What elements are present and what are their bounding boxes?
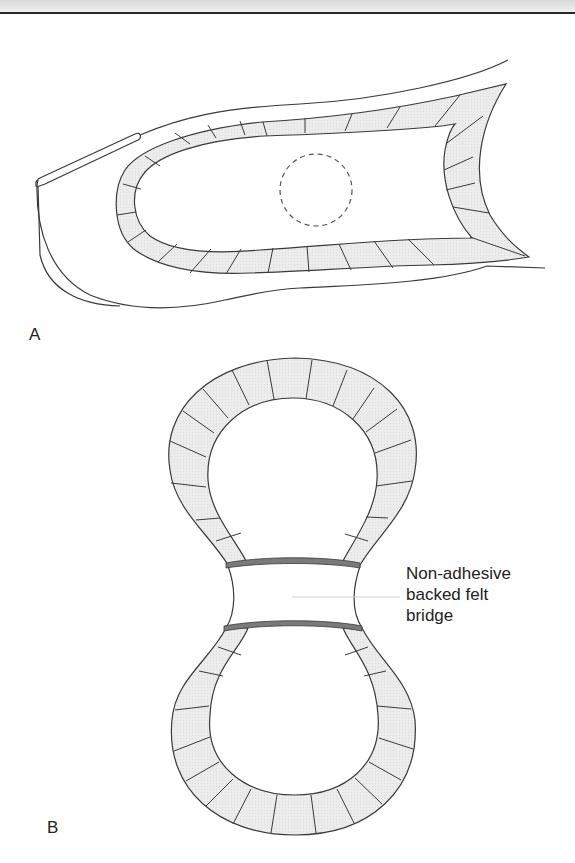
panel-label-b: B bbox=[47, 818, 58, 838]
callout-line-2: backed felt bbox=[406, 584, 511, 605]
felt-pad-u bbox=[116, 84, 529, 274]
panel-label-a: A bbox=[29, 325, 40, 345]
felt-bridge bbox=[224, 558, 400, 631]
callout-line-3: bridge bbox=[406, 605, 511, 626]
bridge-body bbox=[226, 562, 362, 629]
callout-line-1: Non-adhesive bbox=[406, 563, 511, 584]
diagram-canvas bbox=[0, 0, 575, 863]
lesion-circle bbox=[280, 154, 352, 226]
bridge-callout: Non-adhesive backed felt bridge bbox=[406, 563, 511, 626]
upper-lobe bbox=[169, 358, 417, 565]
